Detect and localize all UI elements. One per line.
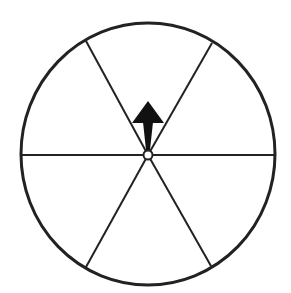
spinner-diagram xyxy=(0,0,291,293)
center-hub-icon xyxy=(144,151,153,160)
